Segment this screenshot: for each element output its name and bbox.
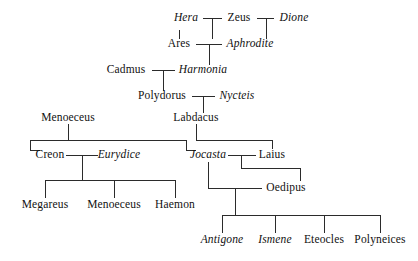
family-tree-diagram: Hera Zeus Dione Ares Aphrodite Cadmus Ha… bbox=[0, 0, 418, 261]
person-menoeceus-elder: Menoeceus bbox=[41, 112, 95, 124]
person-harmonia: Harmonia bbox=[179, 64, 227, 76]
person-polydorus: Polydorus bbox=[138, 90, 186, 102]
person-nycteis: Nycteis bbox=[220, 90, 255, 102]
person-eurydice: Eurydice bbox=[98, 149, 141, 161]
person-jocasta: Jocasta bbox=[190, 149, 226, 161]
person-polyneices: Polyneices bbox=[354, 234, 405, 246]
person-antigone: Antigone bbox=[201, 234, 244, 246]
person-ismene: Ismene bbox=[258, 234, 291, 246]
person-aphrodite: Aphrodite bbox=[227, 38, 274, 50]
person-dione: Dione bbox=[280, 12, 309, 24]
connector-lines bbox=[0, 0, 418, 261]
person-creon: Creon bbox=[36, 149, 65, 161]
person-megareus: Megareus bbox=[22, 199, 69, 211]
person-cadmus: Cadmus bbox=[107, 64, 146, 76]
person-eteocles: Eteocles bbox=[304, 234, 344, 246]
person-oedipus: Oedipus bbox=[266, 182, 305, 194]
person-menoeceus-younger: Menoeceus bbox=[87, 199, 141, 211]
person-laius: Laius bbox=[259, 149, 285, 161]
person-hera: Hera bbox=[174, 12, 198, 24]
person-labdacus: Labdacus bbox=[173, 112, 218, 124]
person-haemon: Haemon bbox=[155, 199, 195, 211]
person-ares: Ares bbox=[168, 38, 190, 50]
person-zeus: Zeus bbox=[228, 12, 251, 24]
